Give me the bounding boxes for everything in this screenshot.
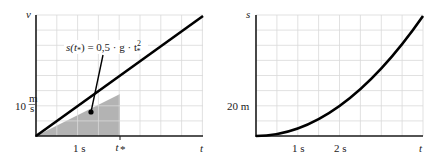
- svg-text:s: s: [30, 102, 34, 114]
- grid-right: [256, 15, 423, 136]
- velocity-time-chart: v t 10 m s 1 s t * s(t*) = 0,5 · g · t2*: [15, 8, 204, 155]
- y-tick-label-20m: 20 m: [227, 100, 250, 112]
- annotation-formula: s(t*) = 0,5 · g · t2*: [64, 39, 148, 56]
- x-tick-label-t-star: t *: [116, 141, 126, 155]
- x-axis-label-t-left: t: [200, 142, 204, 154]
- x-tick-label-2s-right: 2 s: [334, 142, 347, 154]
- x-axis-label-t-right: t: [419, 142, 423, 154]
- y-tick-label-10ms: 10 m s: [15, 92, 38, 114]
- y-axis-label-s: s: [246, 8, 250, 20]
- svg-text:t: t: [116, 141, 120, 153]
- distance-time-chart: s t 20 m 1 s 2 s: [227, 8, 423, 154]
- y-axis-label-v: v: [26, 8, 31, 20]
- svg-text:*: *: [120, 143, 126, 155]
- free-fall-diagrams: v t 10 m s 1 s t * s(t*) = 0,5 · g · t2*: [0, 0, 437, 157]
- x-tick-label-1s-left: 1 s: [73, 142, 86, 154]
- svg-text:10: 10: [15, 100, 27, 112]
- x-tick-label-1s-right: 1 s: [292, 142, 305, 154]
- annotation-dot: [88, 109, 93, 114]
